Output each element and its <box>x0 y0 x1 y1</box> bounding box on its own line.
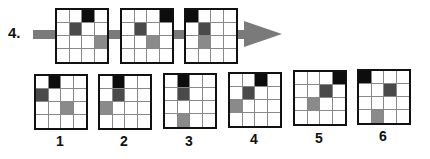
grid-cell <box>49 102 62 115</box>
grid-cell <box>122 49 135 62</box>
grid-cell <box>135 49 148 62</box>
grid-cell <box>147 36 160 49</box>
grid-cell <box>372 97 385 110</box>
grid-cell <box>268 87 281 100</box>
grid-cell <box>268 74 281 87</box>
option-grid-6[interactable] <box>357 69 411 125</box>
grid-cell <box>372 110 385 123</box>
grid-cell <box>95 23 108 36</box>
grid-cell <box>147 49 160 62</box>
grid-cell <box>333 72 346 85</box>
option-grid-3[interactable] <box>163 73 217 129</box>
option-grid-5[interactable] <box>293 70 347 126</box>
grid-cell <box>178 75 191 88</box>
grid-cell <box>36 115 49 128</box>
sequence-grid-2 <box>120 8 174 64</box>
grid-cell <box>190 114 203 127</box>
grid-cell <box>125 115 138 128</box>
grid-cell <box>224 10 237 23</box>
option-label-6: 6 <box>373 128 393 144</box>
grid-cell <box>384 110 397 123</box>
grid-cell <box>138 102 151 115</box>
option-grid-1[interactable] <box>34 74 88 130</box>
grid-cell <box>160 49 173 62</box>
grid-cell <box>203 75 216 88</box>
grid-cell <box>203 101 216 114</box>
grid-cell <box>308 72 321 85</box>
grid-cell <box>320 85 333 98</box>
grid-cell <box>190 88 203 101</box>
grid-cell <box>203 88 216 101</box>
grid-cell <box>138 115 151 128</box>
grid-cell <box>100 76 113 89</box>
grid-cell <box>125 102 138 115</box>
grid-cell <box>61 115 74 128</box>
grid-cell <box>199 49 212 62</box>
grid-cell <box>138 89 151 102</box>
grid-cell <box>165 75 178 88</box>
grid-cell <box>203 114 216 127</box>
grid-cell <box>372 71 385 84</box>
grid-cell <box>190 75 203 88</box>
grid-cell <box>95 10 108 23</box>
grid-cell <box>95 49 108 62</box>
grid-cell <box>359 110 372 123</box>
grid-cell <box>268 113 281 126</box>
grid-cell <box>397 84 410 97</box>
grid-cell <box>359 97 372 110</box>
grid-cell <box>36 89 49 102</box>
grid-cell <box>359 71 372 84</box>
grid-cell <box>125 76 138 89</box>
grid-cell <box>255 100 268 113</box>
grid-cell <box>82 23 95 36</box>
grid-cell <box>122 10 135 23</box>
grid-cell <box>113 115 126 128</box>
grid-cell <box>186 36 199 49</box>
grid-cell <box>224 49 237 62</box>
grid-cell <box>125 89 138 102</box>
grid-cell <box>74 76 87 89</box>
grid-cell <box>160 36 173 49</box>
grid-cell <box>61 89 74 102</box>
grid-cell <box>178 114 191 127</box>
grid-cell <box>70 49 83 62</box>
grid-cell <box>100 89 113 102</box>
grid-cell <box>49 89 62 102</box>
option-grid-2[interactable] <box>98 74 152 130</box>
sequence-grid-3 <box>184 8 238 64</box>
grid-cell <box>160 23 173 36</box>
grid-cell <box>135 23 148 36</box>
grid-cell <box>95 36 108 49</box>
grid-cell <box>113 89 126 102</box>
grid-cell <box>384 71 397 84</box>
option-grid-4[interactable] <box>228 72 282 128</box>
grid-cell <box>74 102 87 115</box>
grid-cell <box>243 74 256 87</box>
grid-cell <box>211 10 224 23</box>
grid-cell <box>36 102 49 115</box>
grid-cell <box>333 85 346 98</box>
option-label-4: 4 <box>244 131 264 147</box>
grid-cell <box>135 10 148 23</box>
grid-cell <box>49 115 62 128</box>
grid-cell <box>70 23 83 36</box>
grid-cell <box>384 97 397 110</box>
grid-cell <box>57 49 70 62</box>
grid-cell <box>255 113 268 126</box>
grid-cell <box>384 84 397 97</box>
grid-cell <box>57 10 70 23</box>
grid-cell <box>243 87 256 100</box>
grid-cell <box>230 100 243 113</box>
grid-cell <box>211 36 224 49</box>
grid-cell <box>397 110 410 123</box>
grid-cell <box>224 36 237 49</box>
grid-cell <box>186 10 199 23</box>
grid-cell <box>147 10 160 23</box>
grid-cell <box>135 36 148 49</box>
grid-cell <box>82 49 95 62</box>
grid-cell <box>268 100 281 113</box>
option-label-1: 1 <box>50 133 70 149</box>
grid-cell <box>100 115 113 128</box>
grid-cell <box>320 98 333 111</box>
grid-cell <box>397 97 410 110</box>
